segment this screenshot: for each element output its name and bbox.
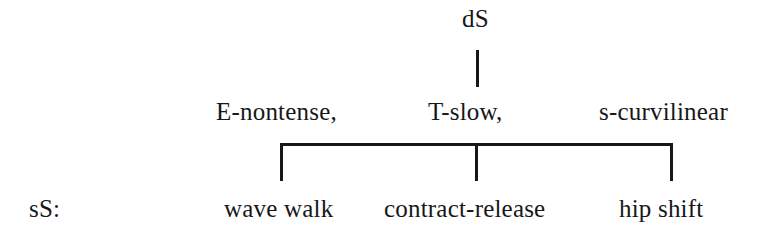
diagram-canvas: dS E-nontense, T-slow, s-curvilinear sS:… — [0, 0, 779, 240]
bracket-stem-left — [280, 143, 283, 181]
feature-label-3: s-curvilinear — [599, 99, 728, 124]
root-node-label: dS — [462, 6, 489, 31]
surface-structure-row-label: sS: — [29, 196, 60, 221]
bracket-stem-right — [670, 143, 673, 181]
bracket-stem-middle — [475, 143, 478, 181]
surface-form-label-2: contract-release — [384, 196, 545, 221]
feature-label-2: T-slow, — [428, 99, 503, 124]
feature-label-1: E-nontense, — [216, 99, 337, 124]
surface-form-label-1: wave walk — [224, 196, 333, 221]
surface-form-label-3: hip shift — [619, 196, 703, 221]
root-connector-line — [476, 50, 479, 87]
